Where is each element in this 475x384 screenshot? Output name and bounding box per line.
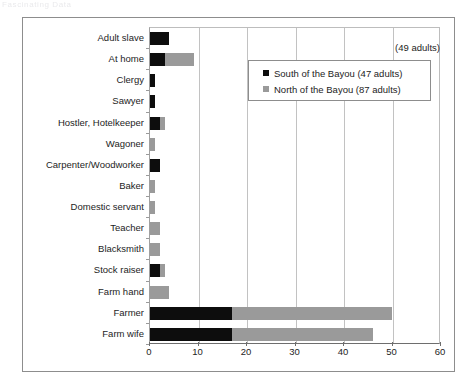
bar-segment-south (150, 53, 165, 66)
cut-off-header-text: Fascinating Data (2, 0, 142, 9)
bar-row (150, 197, 439, 218)
category-label: Teacher (29, 217, 149, 238)
bar-row (150, 134, 439, 155)
bar-segment-north (150, 222, 160, 235)
value-axis: 0102030405060 (149, 346, 440, 362)
bar-segment-north (150, 180, 155, 193)
bar-segment-north (150, 243, 160, 256)
bar-segment-south (150, 74, 155, 87)
chart-legend: South of the Bayou (47 adults)North of t… (248, 60, 431, 101)
value-tick-mark (246, 342, 247, 346)
bar-segment-south (150, 328, 232, 341)
bar-row (150, 239, 439, 260)
category-label: Carpenter/Woodworker (29, 154, 149, 175)
value-tick-label: 30 (289, 346, 300, 357)
legend-entry: North of the Bayou (87 adults) (263, 81, 430, 97)
value-tick-label: 50 (386, 346, 397, 357)
legend-label: North of the Bayou (87 adults) (274, 84, 401, 95)
bar-segment-north (165, 53, 194, 66)
bar-row (150, 260, 439, 281)
bar-segment-south (150, 32, 169, 45)
bar-segment-south (150, 117, 160, 130)
square-marker-icon (263, 70, 269, 76)
value-tick-mark (392, 342, 393, 346)
bar-row (150, 303, 439, 324)
category-label: Farm wife (29, 323, 149, 344)
category-label: At home (29, 48, 149, 69)
bar-segment-north (150, 286, 169, 299)
category-label: Clergy (29, 69, 149, 90)
bar-segment-north (150, 138, 155, 151)
bar-row (150, 155, 439, 176)
value-tick-mark (198, 342, 199, 346)
bar-segment-north (150, 201, 155, 214)
value-tick-mark (149, 342, 150, 346)
bar-segment-north (160, 117, 165, 130)
value-tick-mark (440, 342, 441, 346)
category-label: Wagoner (29, 133, 149, 154)
category-axis: Adult slaveAt homeClergySawyerHostler, H… (23, 27, 149, 344)
value-tick-mark (295, 342, 296, 346)
bar-segment-south (150, 264, 160, 277)
category-label: Domestic servant (29, 196, 149, 217)
bar-row (150, 282, 439, 303)
category-label: Blacksmith (29, 238, 149, 259)
square-marker-icon (263, 86, 269, 92)
value-tick-label: 20 (241, 346, 252, 357)
chart-annotation: (49 adults) (395, 42, 440, 53)
category-label: Stock raiser (29, 259, 149, 280)
bar-row (150, 113, 439, 134)
value-tick-label: 10 (192, 346, 203, 357)
bar-segment-north (232, 328, 373, 341)
category-label: Farmer (29, 302, 149, 323)
category-label: Baker (29, 175, 149, 196)
category-label: Sawyer (29, 90, 149, 111)
bar-segment-south (150, 159, 160, 172)
bar-segment-north (232, 307, 392, 320)
chart-frame: Adult slaveAt homeClergySawyerHostler, H… (22, 17, 455, 372)
category-label: Farm hand (29, 281, 149, 302)
category-label: Hostler, Hotelkeeper (29, 112, 149, 133)
legend-label: South of the Bayou (47 adults) (274, 68, 402, 79)
bar-row (150, 176, 439, 197)
bar-segment-south (150, 95, 155, 108)
category-label: Adult slave (29, 27, 149, 48)
value-tick-label: 60 (435, 346, 446, 357)
value-tick-label: 0 (146, 346, 151, 357)
value-tick-label: 40 (338, 346, 349, 357)
legend-entry: South of the Bayou (47 adults) (263, 65, 430, 81)
bar-row (150, 218, 439, 239)
bar-segment-north (160, 264, 165, 277)
bar-segment-south (150, 307, 232, 320)
value-tick-mark (343, 342, 344, 346)
